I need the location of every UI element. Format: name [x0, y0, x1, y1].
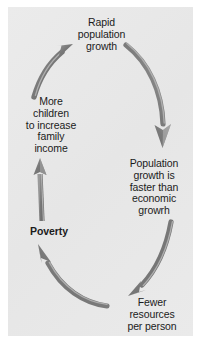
node-fewer-resources: Fewer resources per person	[110, 297, 194, 332]
node-more-children: More children to increase family income	[9, 96, 93, 155]
node-poverty: Poverty	[11, 226, 87, 238]
arrow-fewer-resources-to-poverty	[38, 244, 107, 306]
node-rapid-population-growth: Rapid population growth	[59, 17, 144, 52]
diagram-canvas: Rapid population growth More children to…	[0, 0, 203, 349]
arrow-population-faster-to-fewer-resources	[128, 222, 172, 296]
arrow-poverty-to-more-children	[34, 158, 47, 221]
arrow-rapid-growth-to-population-faster	[126, 44, 171, 148]
node-population-growth-faster: Population growth is faster than economi…	[113, 158, 195, 217]
